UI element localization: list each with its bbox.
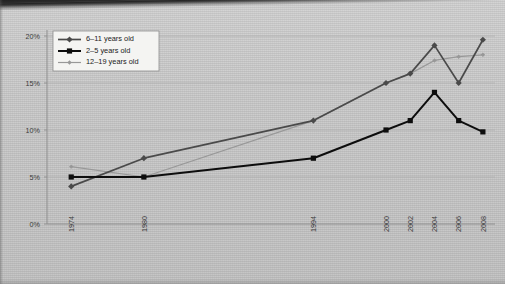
x-tick-label: 1980	[140, 216, 149, 232]
data-point-marker	[68, 183, 74, 189]
legend-label: 6–11 years old	[86, 34, 134, 43]
x-tick-label: 2002	[406, 216, 415, 232]
data-point-marker	[141, 174, 146, 179]
y-axis-tick-labels: 0%5%10%15%20%	[26, 32, 47, 229]
data-point-marker	[383, 127, 388, 132]
data-point-marker	[456, 54, 460, 58]
data-point-marker	[67, 48, 72, 53]
chart-svg: 0%5%10%15%20% 19741980199420002002200420…	[0, 0, 505, 284]
data-point-marker	[311, 156, 316, 161]
y-tick-label: 20%	[26, 32, 41, 41]
data-point-marker	[432, 58, 436, 62]
y-tick-label: 5%	[30, 173, 41, 182]
data-point-marker	[456, 118, 461, 123]
data-point-marker	[432, 90, 437, 95]
x-tick-label: 2000	[382, 216, 391, 232]
data-point-marker	[69, 164, 73, 168]
legend-label: 2–5 years old	[86, 46, 130, 55]
y-tick-label: 0%	[30, 220, 41, 229]
data-point-marker	[310, 118, 316, 124]
data-point-marker	[481, 53, 485, 57]
data-point-marker	[408, 118, 413, 123]
x-tick-label: 2004	[430, 216, 439, 232]
series-2	[69, 90, 486, 180]
x-tick-label: 1974	[67, 216, 76, 232]
data-point-marker	[383, 80, 389, 86]
series-line	[71, 55, 483, 177]
y-tick-label: 15%	[26, 79, 41, 88]
line-chart: 0%5%10%15%20% 19741980199420002002200420…	[0, 0, 505, 284]
legend: 6–11 years old2–5 years old12–19 years o…	[53, 31, 159, 71]
x-tick-label: 2006	[454, 216, 463, 232]
data-point-marker	[480, 129, 485, 134]
data-point-marker	[69, 174, 74, 179]
data-point-marker	[141, 155, 147, 161]
y-tick-label: 10%	[26, 126, 41, 135]
x-tick-label: 1994	[309, 216, 318, 232]
legend-label: 12–19 years old	[86, 57, 139, 66]
x-tick-label: 2008	[479, 216, 488, 232]
series-3	[69, 53, 485, 180]
series-line	[71, 92, 483, 177]
